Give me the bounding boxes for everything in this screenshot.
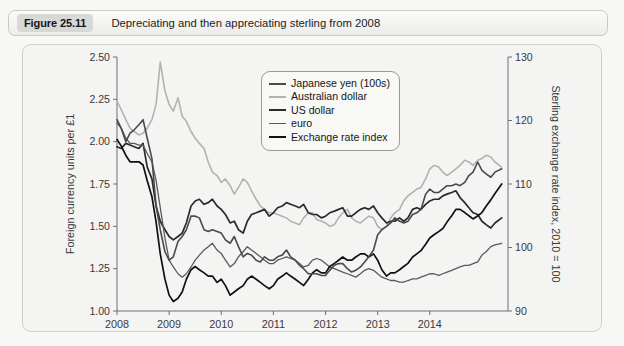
legend-item: US dollar xyxy=(269,104,390,117)
figure-caption-bar: Figure 25.11 Depreciating and then appre… xyxy=(8,10,608,36)
legend-item-label: euro xyxy=(291,117,312,130)
legend-swatch-icon xyxy=(269,123,286,124)
figure-number-badge: Figure 25.11 xyxy=(17,14,93,32)
legend-item: Australian dollar xyxy=(269,90,390,103)
legend-item-label: Exchange rate index xyxy=(291,131,388,144)
legend-swatch-icon xyxy=(269,96,286,98)
legend-item-label: Australian dollar xyxy=(291,90,367,103)
legend-item: euro xyxy=(269,117,390,130)
legend-swatch-icon xyxy=(269,109,286,111)
legend-item: Japanese yen (100s) xyxy=(269,77,390,90)
legend-item: Exchange rate index xyxy=(269,131,390,144)
legend-item-label: US dollar xyxy=(291,104,335,117)
figure-title: Depreciating and then appreciating sterl… xyxy=(111,17,380,29)
legend-swatch-icon xyxy=(269,83,286,85)
chart-legend: Japanese yen (100s)Australian dollarUS d… xyxy=(261,71,400,151)
legend-item-label: Japanese yen (100s) xyxy=(291,77,390,90)
legend-swatch-icon xyxy=(269,136,286,138)
figure-root: Figure 25.11 Depreciating and then appre… xyxy=(0,0,624,346)
